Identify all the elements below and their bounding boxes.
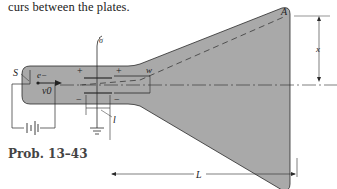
- label-deflection: x: [315, 44, 320, 54]
- crt-tube: [22, 8, 290, 189]
- minus-sign-left: −: [76, 94, 82, 105]
- label-screen-point: A: [280, 6, 288, 17]
- minus-sign-right: −: [114, 94, 120, 105]
- battery-icon: [27, 121, 38, 135]
- label-plate-length: l: [113, 114, 116, 125]
- plus-sign-left: +: [77, 65, 83, 76]
- label-initial-velocity: v0: [42, 85, 51, 96]
- svg-text:σ: σ: [99, 36, 104, 45]
- label-screen-distance: L: [195, 169, 202, 180]
- label-source: S: [13, 67, 18, 78]
- label-plate-gap: w: [146, 65, 152, 75]
- plus-sign-right: +: [116, 65, 122, 76]
- ground-icon: [90, 128, 104, 134]
- label-electron: e−: [37, 70, 47, 80]
- problem-label: Prob. 13–43: [8, 147, 88, 161]
